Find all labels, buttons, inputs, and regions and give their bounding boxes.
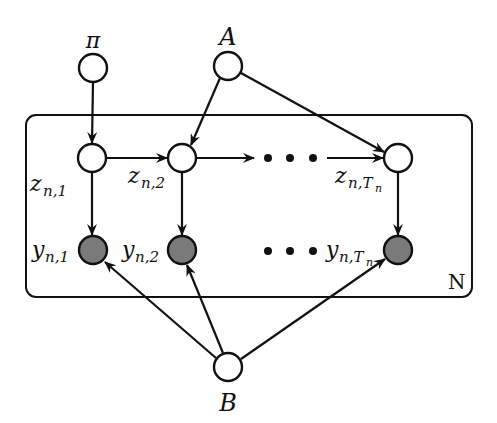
- node-B: [214, 353, 242, 381]
- svg-text:z: z: [29, 171, 42, 196]
- node-z2: [168, 144, 196, 172]
- ellipsis-dot: [286, 154, 294, 162]
- svg-text:n: n: [375, 182, 382, 195]
- node-z1: [78, 144, 106, 172]
- svg-text:n,T: n,T: [348, 174, 373, 192]
- edge-A-z2: [191, 78, 220, 145]
- node-yT: [384, 236, 412, 264]
- svg-text:n,1: n,1: [43, 182, 67, 200]
- label-B: B: [218, 389, 237, 417]
- ellipsis-dot: [264, 247, 272, 255]
- node-A: [214, 52, 242, 80]
- node-y2: [168, 236, 196, 264]
- label-z1: z n,1: [29, 171, 67, 200]
- node-zT: [384, 144, 412, 172]
- svg-text:y: y: [121, 237, 135, 262]
- label-y2: y n,2: [121, 237, 159, 266]
- label-yT: y n,T n: [325, 237, 373, 269]
- svg-text:n,2: n,2: [141, 174, 165, 192]
- svg-text:n,1: n,1: [45, 248, 69, 266]
- label-A: A: [217, 23, 236, 51]
- node-y1: [79, 236, 107, 264]
- edge-A-zT: [241, 73, 384, 152]
- ellipsis-dot: [309, 247, 317, 255]
- svg-text:n,T: n,T: [339, 248, 364, 266]
- svg-text:y: y: [325, 237, 339, 262]
- ellipsis-dot: [309, 154, 317, 162]
- graphical-model-diagram: N π A B z: [0, 0, 497, 423]
- node-pi: [79, 54, 107, 82]
- svg-text:z: z: [334, 163, 347, 188]
- label-y1: y n,1: [31, 237, 69, 266]
- edge-B-yT: [241, 259, 385, 359]
- svg-text:z: z: [127, 163, 140, 188]
- ellipsis-dot: [264, 154, 272, 162]
- ellipsis-dot: [286, 247, 294, 255]
- label-z2: z n,2: [127, 163, 165, 192]
- svg-text:y: y: [31, 237, 45, 262]
- edge-B-y1: [105, 262, 216, 358]
- label-pi: π: [85, 28, 101, 53]
- edge-pi-z1: [92, 82, 93, 143]
- label-zT: z n,T n: [334, 163, 382, 195]
- svg-text:n: n: [366, 256, 373, 269]
- edge-B-y2: [187, 265, 223, 353]
- svg-text:n,2: n,2: [135, 248, 159, 266]
- plate-label: N: [448, 270, 466, 294]
